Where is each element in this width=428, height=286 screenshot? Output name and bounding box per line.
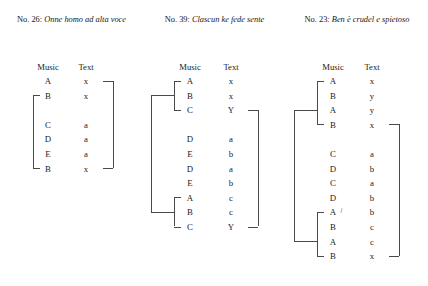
music-cell: B bbox=[326, 120, 340, 130]
music-cell: C bbox=[183, 222, 197, 232]
text-cell: y bbox=[365, 91, 379, 101]
caption-26: No. 26: Onne homo ad alta voce bbox=[6, 14, 137, 27]
music-cell: B bbox=[183, 207, 197, 217]
music-outer-bracket-spine bbox=[151, 95, 152, 212]
music-cell: E bbox=[41, 149, 55, 159]
text-cell: Y bbox=[224, 222, 238, 232]
text-cell: x bbox=[365, 76, 379, 86]
music-bracket-arm-bottom bbox=[174, 110, 181, 111]
header-music: Music bbox=[30, 62, 66, 72]
music-cell: A bbox=[326, 76, 340, 86]
header-text: Text bbox=[354, 62, 390, 72]
music-outer-bracket-spine bbox=[294, 110, 295, 241]
music-bracket-arm-bottom bbox=[317, 256, 324, 257]
music-bracket-spine bbox=[317, 81, 318, 125]
text-bracket-spine bbox=[258, 110, 259, 227]
text-cell: x bbox=[79, 91, 93, 101]
music-cell: D bbox=[326, 164, 340, 174]
text-bracket-arm-bottom bbox=[103, 168, 113, 169]
text-bracket-arm-top bbox=[248, 110, 258, 111]
music-bracket-spine bbox=[33, 95, 34, 168]
text-cell: b bbox=[224, 178, 238, 188]
music-cell: D bbox=[183, 164, 197, 174]
music-bracket-arm-bottom bbox=[317, 124, 324, 125]
music-bracket-arm-top bbox=[317, 212, 324, 213]
header-text: Text bbox=[213, 62, 249, 72]
music-bracket-spine bbox=[174, 197, 175, 226]
caption-39: No. 39: Clascun ke fede sente bbox=[149, 14, 280, 27]
music-cell: B bbox=[326, 222, 340, 232]
music-bracket-arm-top bbox=[174, 81, 181, 82]
music-bracket-arm-bottom bbox=[33, 168, 40, 169]
music-cell: C bbox=[326, 149, 340, 159]
caption-title: Onne homo ad alta voce bbox=[44, 15, 126, 24]
music-cell: B bbox=[326, 91, 340, 101]
music-cell: B bbox=[183, 91, 197, 101]
caption-23: No. 23: Ben è crudel e spietoso bbox=[292, 14, 422, 27]
lauda-column-23: No. 23: Ben è crudel e spietoso Music Te… bbox=[286, 0, 428, 286]
text-bracket-spine bbox=[399, 124, 400, 255]
music-outer-bracket-arm-top bbox=[151, 95, 174, 96]
music-bracket-spine bbox=[317, 212, 318, 256]
text-cell: c bbox=[224, 193, 238, 203]
text-cell: x bbox=[224, 91, 238, 101]
music-cell: B bbox=[326, 251, 340, 261]
music-bracket-arm-top bbox=[317, 81, 324, 82]
text-cell: a bbox=[365, 178, 379, 188]
lauda-column-26: No. 26: Onne homo ad alta voce Music Tex… bbox=[0, 0, 143, 286]
text-bracket-arm-bottom bbox=[248, 227, 258, 228]
header-music: Music bbox=[172, 62, 208, 72]
text-cell: c bbox=[224, 207, 238, 217]
text-cell: x bbox=[79, 164, 93, 174]
music-bracket-arm-top bbox=[174, 197, 181, 198]
text-cell: a bbox=[224, 134, 238, 144]
text-bracket-spine bbox=[113, 81, 114, 169]
music-outer-bracket-arm-bottom bbox=[151, 212, 174, 213]
text-cell: a bbox=[79, 149, 93, 159]
text-cell: b bbox=[365, 193, 379, 203]
music-cell: A bbox=[183, 193, 197, 203]
text-cell: x bbox=[79, 76, 93, 86]
music-cell: E bbox=[183, 178, 197, 188]
music-cell: A bbox=[41, 76, 55, 86]
text-cell: x bbox=[224, 76, 238, 86]
analysis-table-26: Music Text AxBxCaDaEaBx bbox=[0, 62, 143, 262]
text-cell: a bbox=[79, 134, 93, 144]
music-cell: E bbox=[183, 149, 197, 159]
music-cell: A bbox=[326, 207, 340, 217]
music-outer-bracket-arm-bottom bbox=[294, 241, 317, 242]
text-cell: c bbox=[365, 222, 379, 232]
music-cell: B bbox=[41, 91, 55, 101]
music-cell: B bbox=[41, 164, 55, 174]
text-bracket-arm-top bbox=[389, 124, 399, 125]
caption-number: No. 23: bbox=[305, 15, 330, 24]
music-outer-bracket-arm-top bbox=[294, 110, 317, 111]
text-cell: Y bbox=[224, 105, 238, 115]
scan-artifact bbox=[340, 208, 342, 213]
music-cell: C bbox=[326, 178, 340, 188]
caption-title: Clascun ke fede sente bbox=[192, 15, 264, 24]
music-bracket-arm-top bbox=[33, 95, 40, 96]
text-cell: b bbox=[365, 164, 379, 174]
caption-title: Ben è crudel e spietoso bbox=[332, 15, 410, 24]
header-text: Text bbox=[68, 62, 104, 72]
text-bracket-arm-top bbox=[103, 81, 113, 82]
text-cell: c bbox=[365, 237, 379, 247]
text-cell: a bbox=[79, 120, 93, 130]
analysis-table-23: Music Text AxByAyBxCaDbCaDbAbBcAcBx bbox=[286, 62, 428, 262]
music-cell: A bbox=[183, 76, 197, 86]
lauda-column-39: No. 39: Clascun ke fede sente Music Text… bbox=[143, 0, 286, 286]
music-cell: D bbox=[326, 193, 340, 203]
caption-number: No. 39: bbox=[165, 15, 190, 24]
text-cell: a bbox=[365, 149, 379, 159]
music-cell: A bbox=[326, 105, 340, 115]
text-bracket-arm-bottom bbox=[389, 256, 399, 257]
text-cell: x bbox=[365, 251, 379, 261]
music-bracket-spine bbox=[174, 81, 175, 110]
text-cell: b bbox=[365, 207, 379, 217]
music-cell: C bbox=[41, 120, 55, 130]
music-bracket-arm-bottom bbox=[174, 227, 181, 228]
analysis-table-39: Music Text AxBxCYDaEbDaEbAcBcCY bbox=[143, 62, 286, 262]
text-cell: x bbox=[365, 120, 379, 130]
caption-number: No. 26: bbox=[17, 15, 42, 24]
